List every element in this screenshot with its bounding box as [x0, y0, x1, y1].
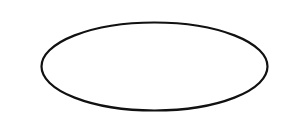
diagram-canvas: [0, 0, 288, 135]
ellipse-shape: [42, 23, 268, 111]
